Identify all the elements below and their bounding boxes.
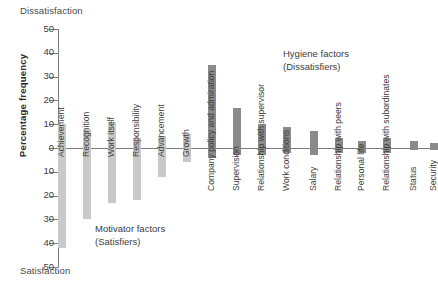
- y-axis-tick-label: 10: [32, 165, 54, 176]
- motivator-annotation-line-1: Motivator factors: [95, 223, 165, 236]
- y-axis-tick-label: 50: [32, 261, 54, 272]
- y-axis-tick-label: 0: [32, 142, 54, 153]
- category-label: Relationship with peers: [333, 102, 343, 191]
- bar-positive: [410, 141, 418, 148]
- bar-negative: [58, 148, 66, 248]
- category-label: Recognition: [81, 112, 91, 157]
- category-label: Responsibility: [131, 104, 141, 157]
- bar-negative: [430, 148, 438, 150]
- y-axis-tick-label: 40: [32, 237, 54, 248]
- bar-negative: [83, 148, 91, 219]
- category-label: Relationship with supervisor: [256, 84, 266, 191]
- category-label: Work itself: [106, 117, 116, 157]
- y-axis-tick-label: 40: [32, 46, 54, 57]
- category-label: Relationship with subordinates: [381, 74, 391, 191]
- category-label: Company policy and admiration: [206, 71, 216, 191]
- category-label: Salary: [308, 167, 318, 191]
- hygiene-annotation-line-1: Hygiene factors: [283, 48, 349, 61]
- y-axis-tick-label: 30: [32, 213, 54, 224]
- axis-pole-top-label: Dissatisfaction: [20, 5, 83, 16]
- bar-negative: [310, 148, 318, 155]
- y-axis-tick-label: 20: [32, 94, 54, 105]
- category-label: Status: [408, 167, 418, 191]
- category-label: Security: [428, 160, 438, 191]
- bar-positive: [233, 108, 241, 148]
- category-label: Advancement: [156, 104, 166, 157]
- hygiene-annotation-line-2: (Dissatisfiers): [283, 61, 349, 74]
- motivator-annotation-line-2: (Satisfiers): [95, 236, 165, 249]
- y-axis-tick-label: 10: [32, 118, 54, 129]
- y-axis-title: Percentage frequency: [17, 36, 28, 176]
- motivator-group-annotation: Motivator factors (Satisfiers): [95, 223, 165, 248]
- y-axis-tick-label: 30: [32, 70, 54, 81]
- y-axis-tick-label: 50: [32, 23, 54, 34]
- category-label: Achievement: [56, 107, 66, 157]
- category-label: Personal life: [356, 144, 366, 191]
- y-axis-tick-label: 20: [32, 189, 54, 200]
- hygiene-group-annotation: Hygiene factors (Dissatisfiers): [283, 48, 349, 73]
- bar-negative: [410, 148, 418, 150]
- bar-positive: [310, 131, 318, 148]
- category-label: Work conditions: [281, 130, 291, 191]
- category-label: Growth: [181, 129, 191, 157]
- category-label: Supervision: [231, 146, 241, 191]
